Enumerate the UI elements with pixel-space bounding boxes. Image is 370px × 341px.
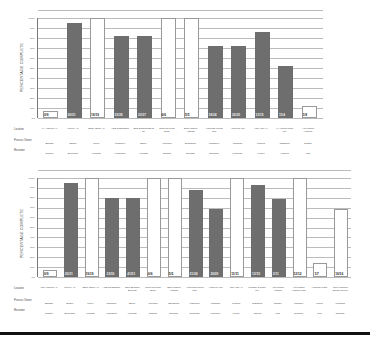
progress-bar xyxy=(251,185,265,277)
bar-value-label: 12/12 xyxy=(294,272,302,276)
process-owner-cell: Justamus xyxy=(247,302,267,305)
process-owner-cell: Longford xyxy=(330,302,350,305)
reviewer-cell: Dimalo xyxy=(39,312,59,315)
bar-value-label: 19/19 xyxy=(86,272,94,276)
y-tick-label: 80% xyxy=(27,196,35,199)
location-cell: Alto Modes Aimtone xyxy=(268,286,288,292)
progress-bar xyxy=(126,198,140,277)
y-tick-label: 50% xyxy=(27,226,35,229)
y-tick-label: 60% xyxy=(27,216,35,219)
location-cell: Alto Modes Aimtone LTD xyxy=(289,286,309,292)
location-cell: Sitar Models Antonde xyxy=(164,286,184,292)
bar-column: 3/11 xyxy=(272,178,286,277)
location-cell: Along Tie Mill xyxy=(205,286,225,289)
bar-value-label: 23/30 xyxy=(106,272,114,276)
y-tick-label: 70% xyxy=(27,206,35,209)
process-owner-cell: Vibrunde xyxy=(143,302,163,305)
process-owner-cell: Whitman xyxy=(205,302,225,305)
location-cell: Ohio Beading Bend St xyxy=(122,286,142,292)
progress-bar xyxy=(209,209,223,277)
bar-column: 0/9 xyxy=(43,178,57,277)
location-cell: Saldy Office Air xyxy=(81,286,101,289)
process-owner-cell: Landlore xyxy=(289,302,309,305)
y-axis-label: PERCENTAGE COMPLETE xyxy=(20,209,24,258)
bar-column: 19/19 xyxy=(85,178,99,277)
bar-column: 23/30 xyxy=(105,178,119,277)
progress-bar xyxy=(64,183,78,277)
table-row-label: Reviewer xyxy=(14,309,25,312)
location-cell: Americas Forest Rim xyxy=(185,286,205,292)
reviewer-cell: Wall xyxy=(309,312,329,315)
process-owner-cell: Tuney xyxy=(81,302,101,305)
bar-column: 20/29 xyxy=(209,178,223,277)
bar-value-label: 41/51 xyxy=(127,272,135,276)
target-frame xyxy=(230,178,244,277)
y-tick-label: 0% xyxy=(27,276,35,279)
bar-column: 13/15 xyxy=(251,178,265,277)
reviewer-cell: Dianode xyxy=(330,312,350,315)
process-owner-cell: Bitcoy xyxy=(122,302,142,305)
bar-value-label: 13/15 xyxy=(252,272,260,276)
progress-bar xyxy=(272,199,286,277)
bar-column: 5/5 xyxy=(168,178,182,277)
location-cell: Humidor Plant xyxy=(309,286,329,289)
bar-column: 6/6 xyxy=(147,178,161,277)
reviewer-cell: Lienell xyxy=(226,312,246,315)
location-cell: Nucleus Press Study xyxy=(143,286,163,292)
y-tick-label: 90% xyxy=(27,186,35,189)
reviewer-cell: Wall xyxy=(268,312,288,315)
process-owner-cell: Shafer xyxy=(60,302,80,305)
bar-value-label: 20/21 xyxy=(65,272,73,276)
bar-value-label: 5/5 xyxy=(169,272,173,276)
top-border xyxy=(38,170,351,171)
location-cell: AGE Roadamble xyxy=(101,286,121,289)
bar-column: 10/16 xyxy=(334,178,348,277)
y-tick-label: 100% xyxy=(27,177,35,180)
reviewer-cell: Brunnode xyxy=(60,312,80,315)
bar-column: 41/51 xyxy=(126,178,140,277)
bar-value-label: 10/16 xyxy=(335,272,343,276)
process-owner-cell: Bigham xyxy=(39,302,59,305)
bar-column: 1/7 xyxy=(313,178,327,277)
reviewer-cell: Mientak xyxy=(81,312,101,315)
reviewer-cell: Helnodo xyxy=(122,312,142,315)
y-tick-label: 40% xyxy=(27,236,35,239)
bar-value-label: 20/29 xyxy=(210,272,218,276)
y-tick-label: 30% xyxy=(27,246,35,249)
reviewer-cell: Dianode xyxy=(164,312,184,315)
target-frame xyxy=(293,178,307,277)
process-owner-cell: Plannis xyxy=(226,302,246,305)
bar-value-label: 11/11 xyxy=(231,272,239,276)
table-row-label: Location xyxy=(14,287,24,290)
reviewer-cell: Amsvug xyxy=(247,312,267,315)
target-frame xyxy=(85,178,99,277)
location-cell: Los Angeles Air xyxy=(39,286,59,289)
process-owner-cell: Lahomen xyxy=(101,302,121,305)
location-cell: Windsor & Tinge Mill xyxy=(247,286,267,292)
plot-area: 0/920/2119/1923/3041/516/65/521/2420/291… xyxy=(37,178,351,277)
bar-column: 11/11 xyxy=(230,178,244,277)
process-owner-cell: Lonus xyxy=(309,302,329,305)
bar-value-label: 0/9 xyxy=(44,272,48,276)
gridline xyxy=(38,277,351,278)
process-owner-cell: Disade xyxy=(268,302,288,305)
page-separator xyxy=(0,332,370,335)
location-cell: Loveny Air xyxy=(60,286,80,289)
reviewer-cell: Dianide xyxy=(143,312,163,315)
bar-value-label: 1/7 xyxy=(314,272,318,276)
bar-column: 20/21 xyxy=(64,178,78,277)
bar-column: 12/12 xyxy=(293,178,307,277)
bar-value-label: 6/6 xyxy=(148,272,152,276)
target-frame xyxy=(334,209,348,277)
location-cell: Glen Lowning Bourke St Mill xyxy=(330,286,350,292)
chart-bottom: PERCENTAGE COMPLETE 0/920/2119/1923/3041… xyxy=(0,0,370,330)
progress-bar xyxy=(189,190,203,277)
target-frame xyxy=(147,178,161,277)
process-owner-cell: Lahomen xyxy=(185,302,205,305)
process-owner-cell: Brombock xyxy=(164,302,184,305)
bar-value-label: 3/11 xyxy=(273,272,279,276)
table-row-label: Process Owner xyxy=(14,299,32,302)
y-tick-label: 20% xyxy=(27,256,35,259)
bar-column: 21/24 xyxy=(189,178,203,277)
y-tick-label: 10% xyxy=(27,266,35,269)
